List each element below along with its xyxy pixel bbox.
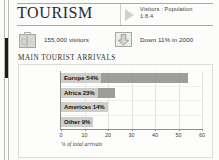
page-title: TOURISM bbox=[17, 4, 93, 22]
chart-gridline-v bbox=[202, 71, 203, 129]
x-axis-tick bbox=[155, 129, 156, 131]
margin-line-inner bbox=[8, 0, 9, 160]
stat-visitors-text: 155,000 visitors bbox=[44, 36, 89, 43]
x-axis-tick-label: 40 bbox=[152, 132, 158, 138]
x-axis-tick bbox=[85, 129, 86, 131]
stat-change-text: Down 11% in 2000 bbox=[140, 36, 193, 43]
ratio-label: Visitors : Population bbox=[140, 6, 193, 12]
triangle-right-icon bbox=[125, 9, 134, 21]
ratio-value: 1:8.4 bbox=[140, 13, 153, 19]
x-axis-tick bbox=[132, 129, 133, 131]
x-axis-label: % of total arrivals bbox=[61, 141, 102, 147]
header-divider bbox=[120, 4, 121, 25]
header: TOURISM Visitors : Population 1:8.4 bbox=[17, 3, 213, 26]
x-axis-tick-label: 60 bbox=[199, 132, 205, 138]
visitors-population-ratio: Visitors : Population 1:8.4 bbox=[140, 6, 193, 21]
chart-gridline-h bbox=[61, 86, 202, 87]
x-axis-tick bbox=[108, 129, 109, 131]
bar-label-europe: Europe 54% bbox=[61, 73, 101, 83]
x-axis-tick-label: 50 bbox=[176, 132, 182, 138]
suitcase-icon bbox=[18, 30, 37, 49]
section-title: MAIN TOURIST ARRIVALS bbox=[18, 54, 116, 62]
x-axis-tick-label: 30 bbox=[129, 132, 135, 138]
margin-line-outer bbox=[4, 0, 5, 160]
stats-row: 155,000 visitors Down 11% in 2000 bbox=[17, 29, 213, 51]
x-axis-tick-label: 10 bbox=[82, 132, 88, 138]
down-arrow-icon bbox=[114, 30, 133, 49]
arrivals-bar-chart: 0102030405060Europe 54%Africa 23%America… bbox=[18, 64, 213, 158]
x-axis-tick-label: 0 bbox=[60, 132, 63, 138]
bar-label-americas: Americas 14% bbox=[61, 102, 108, 112]
header-rule-bottom bbox=[17, 25, 213, 26]
chart-gridline-h bbox=[61, 100, 202, 101]
x-axis-tick bbox=[179, 129, 180, 131]
chart-gridline-h bbox=[61, 115, 202, 116]
margin-tab-marker bbox=[5, 38, 8, 78]
x-axis-tick-label: 20 bbox=[105, 132, 111, 138]
tourism-panel: TOURISM Visitors : Population 1:8.4 155,… bbox=[0, 0, 219, 160]
bar-label-other: Other 9% bbox=[61, 117, 93, 127]
x-axis-tick bbox=[202, 129, 203, 131]
x-axis-tick bbox=[61, 129, 62, 131]
chart-plot-area: 0102030405060Europe 54%Africa 23%America… bbox=[60, 71, 202, 130]
left-margin-rule bbox=[4, 0, 14, 160]
bar-label-africa: Africa 23% bbox=[61, 88, 98, 98]
